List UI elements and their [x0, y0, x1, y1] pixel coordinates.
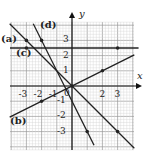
tick-label: -3 [18, 90, 27, 99]
label-c: (c) [16, 48, 32, 58]
coordinate-plane [0, 0, 146, 154]
grid [10, 12, 142, 150]
tick-label: 3 [115, 90, 121, 99]
tick-label: 2 [63, 51, 69, 60]
y-axis-label: y [79, 9, 85, 19]
tick-label: 2 [99, 90, 105, 99]
x-axis-label: x [137, 71, 143, 81]
label-a: (a) [1, 34, 17, 44]
tick-label: 0 [64, 89, 70, 98]
label-b: (b) [10, 116, 26, 126]
tick-label: -3 [57, 127, 66, 136]
tick-label: -2 [57, 111, 66, 120]
tick-label: 1 [63, 66, 69, 75]
label-d: (d) [40, 20, 56, 30]
tick-label: -2 [34, 90, 43, 99]
tick-label: 3 [63, 35, 69, 44]
